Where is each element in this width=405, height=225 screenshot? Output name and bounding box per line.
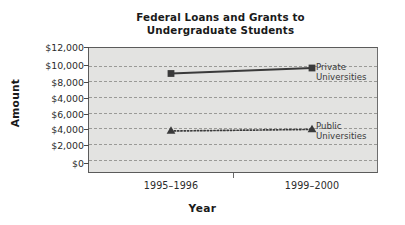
chart-title: Federal Loans and Grants to Undergraduat… — [88, 11, 353, 37]
x-axis-title: Year — [0, 202, 405, 214]
y-tick-label: $2,000 — [26, 141, 84, 151]
x-tick-label-1999-2000: 1999–2000 — [257, 180, 367, 191]
legend-label-private-line-2: Universities — [316, 72, 366, 82]
y-tick-label: $4,000 — [26, 94, 84, 104]
gridline — [89, 97, 377, 98]
y-tick-label: $8,000 — [26, 78, 84, 88]
gridline — [89, 113, 377, 114]
x-tick-label-1995-1996: 1995–1996 — [116, 180, 226, 191]
y-axis-title: Amount — [9, 72, 21, 134]
y-tick-label: $0 — [26, 159, 84, 169]
y-tick-mark — [84, 82, 89, 83]
chart-title-line-1: Federal Loans and Grants to — [88, 11, 353, 24]
chart-title-line-2: Undergraduate Students — [88, 24, 353, 37]
gridline — [89, 144, 377, 145]
y-tick-label: $10,000 — [26, 61, 84, 71]
y-tick-mark — [84, 47, 89, 48]
y-tick-label: $4,000 — [26, 125, 84, 135]
y-tick-label: $6,000 — [26, 110, 84, 120]
legend-label-private-line-1: Private — [316, 62, 366, 72]
legend-label-public-line-2: Universities — [316, 131, 366, 141]
y-tick-mark — [84, 145, 89, 146]
y-tick-mark — [84, 65, 89, 66]
y-tick-mark — [84, 163, 89, 164]
legend-item-private-universities: Private Universities — [316, 62, 366, 83]
y-tick-mark — [84, 129, 89, 130]
y-tick-mark — [84, 98, 89, 99]
y-tick-mark — [84, 114, 89, 115]
legend-item-public-universities: Public Universities — [316, 121, 366, 142]
legend-label-public-line-1: Public — [316, 121, 366, 131]
chart-figure: Federal Loans and Grants to Undergraduat… — [0, 0, 405, 225]
y-tick-label: $12,000 — [26, 43, 84, 53]
y-axis-tick-labels: $12,000 $10,000 $8,000 $4,000 $6,000 $4,… — [26, 40, 84, 180]
gridline — [89, 160, 377, 161]
x-axis-center-tick — [233, 173, 234, 178]
